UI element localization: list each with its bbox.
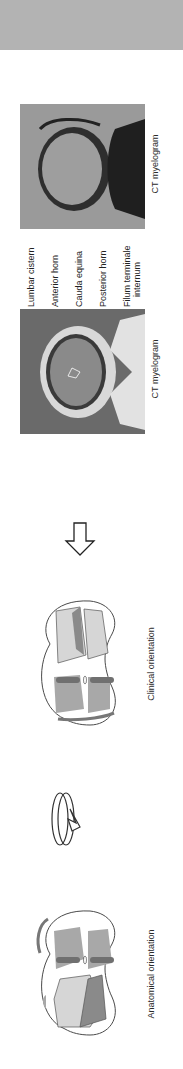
spinal-cord-diagram-clinical bbox=[10, 589, 150, 739]
transition-panel bbox=[60, 519, 100, 559]
spinal-cord-diagram-anatomical bbox=[10, 899, 150, 1049]
label-lumbar-cistern: Lumbar cistern bbox=[26, 247, 36, 307]
label-filum-terminale: Filum terminale bbox=[122, 245, 132, 307]
label-cauda-equina: Cauda equina bbox=[74, 251, 84, 307]
figure: Anatomical orientation Clinical orientat… bbox=[0, 0, 183, 1069]
ct-image-left bbox=[20, 309, 145, 434]
outline-arrow-icon bbox=[60, 519, 100, 559]
anatomical-panel: Anatomical orientation bbox=[10, 899, 160, 1049]
ct-label-band: Lumbar cistern Anterior horn Cauda equin… bbox=[20, 229, 145, 309]
header-band bbox=[0, 0, 183, 50]
label-anterior-horn: Anterior horn bbox=[50, 255, 60, 307]
caption-ct-right: CT myelogram bbox=[150, 114, 160, 214]
caption-ct-left: CT myelogram bbox=[150, 319, 160, 419]
clinical-panel: Clinical orientation bbox=[10, 589, 160, 739]
label-filum-internum: internum bbox=[132, 262, 142, 297]
rotation-panel bbox=[40, 789, 100, 849]
label-posterior-horn: Posterior horn bbox=[98, 250, 108, 307]
rotate-arrow-icon bbox=[40, 789, 90, 849]
caption-clinical: Clinical orientation bbox=[146, 594, 156, 734]
ct-scan-left bbox=[20, 309, 145, 434]
ct-image-right bbox=[20, 104, 145, 229]
ct-scan-right bbox=[20, 104, 145, 229]
caption-anatomical: Anatomical orientation bbox=[146, 904, 156, 1044]
